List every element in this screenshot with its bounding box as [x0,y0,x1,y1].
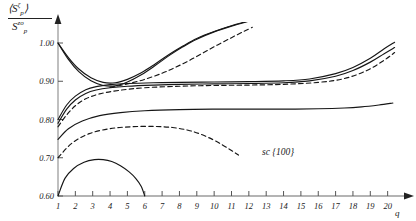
data-curve [58,159,145,196]
x-tick-label: 19 [366,201,375,211]
data-curve [58,103,393,139]
plot-annotation: sc {100} [262,147,294,157]
y-tick-label: 1.00 [39,38,55,48]
y-tick-label: 0.60 [39,191,55,201]
x-tick-label: 15 [297,201,306,211]
x-tick-label: 16 [314,201,323,211]
x-tick-label: 6 [143,201,148,211]
figure-root: ⟨Sζp⟩ Szop 12345678910111213141516171819… [0,0,416,221]
x-tick-label: 7 [160,201,165,211]
y-tick-label: 0.90 [39,76,55,86]
x-tick-label: 18 [349,201,358,211]
x-tick-label: 11 [228,201,236,211]
data-curve [58,126,238,157]
y-tick-label: 0.70 [39,153,55,163]
x-axis-arrow-icon [404,192,414,199]
data-curve [58,53,395,127]
x-tick-label: 17 [331,201,340,211]
plot-canvas: 12345678910111213141516171819200.600.700… [0,0,416,221]
curves-layer [58,21,395,196]
x-tick-label: 3 [90,201,95,211]
x-tick-label: 4 [108,201,113,211]
x-tick-label: 10 [210,201,219,211]
x-tick-label: 9 [195,201,200,211]
x-tick-label: 5 [125,201,129,211]
x-tick-label: 1 [56,201,60,211]
y-axis-arrow-icon [55,14,62,24]
data-curve [110,27,252,87]
x-tick-label: 14 [279,201,288,211]
x-tick-label: 13 [262,201,271,211]
y-tick-label: 0.80 [39,115,55,125]
x-tick-label: 8 [177,201,182,211]
data-curve [58,21,249,86]
x-tick-label: 2 [73,201,78,211]
x-tick-label: 20 [383,201,392,211]
x-axis-label: q [395,208,400,218]
x-tick-label: 12 [245,201,254,211]
tick-labels-layer: 12345678910111213141516171819200.600.700… [39,38,393,211]
